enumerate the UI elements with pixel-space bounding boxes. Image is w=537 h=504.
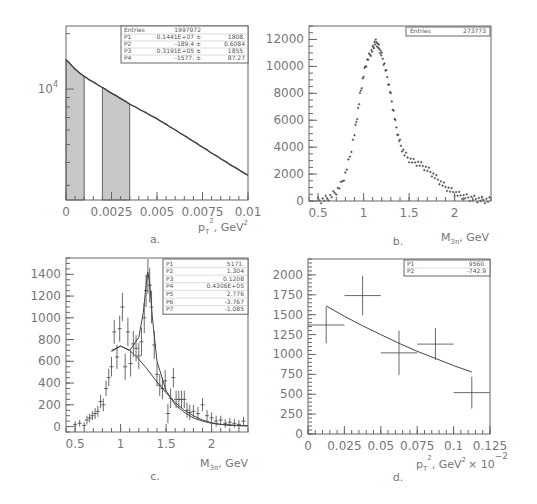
y-tick-label: 0 xyxy=(53,420,61,434)
stats-cell: 0.1441E+07 ± xyxy=(157,33,201,40)
axis-title-part: 2 xyxy=(462,456,466,464)
stats-cell: 1855. xyxy=(228,47,245,54)
x-axis-title: M3π, GeV xyxy=(441,231,489,246)
x-tick-label: 0 xyxy=(304,439,312,453)
fit-curve xyxy=(66,59,248,175)
stats-cell: P3 xyxy=(124,47,132,54)
y-tick-label: 1200 xyxy=(30,289,61,303)
stats-cell: 1808. xyxy=(228,33,245,40)
stats-cell: -189.4 ± xyxy=(175,40,201,47)
y-tick-label: 10000 xyxy=(266,59,304,73)
panel-a: 00.00250.0050.00750.01104Entries1997972P… xyxy=(0,0,268,250)
x-tick-label: 0.005 xyxy=(140,205,174,219)
x-tick-label: 0.0025 xyxy=(91,205,133,219)
y-tick-label: 250 xyxy=(280,407,303,421)
x-tick-label: 0.5 xyxy=(309,206,328,220)
panel-caption: b. xyxy=(393,235,403,248)
y-tick-label: 500 xyxy=(280,387,303,401)
axis-title-part: p xyxy=(416,458,423,471)
y-tick-label: 8000 xyxy=(273,86,304,100)
axis-title-part: T xyxy=(422,465,428,473)
y-tick-label: 6000 xyxy=(273,113,304,127)
stats-cell: 0.3191E+05 ± xyxy=(157,47,201,54)
stats-cell: P1 xyxy=(124,33,132,40)
chart-b: 0.511.52020004000600080001000012000Entri… xyxy=(268,0,537,250)
y-tick-label: 1750 xyxy=(272,288,303,302)
stats-cell: P5 xyxy=(166,290,174,297)
stats-cell: -3.767 xyxy=(225,298,245,305)
stats-cell: P1 xyxy=(166,260,174,267)
x-axis-title: M3π, GeV xyxy=(200,457,248,472)
y-tick-label: 0 xyxy=(295,427,303,441)
y-tick-label: 4000 xyxy=(273,140,304,154)
y-tick-label: 1000 xyxy=(30,311,61,325)
y-tick-label: 1400 xyxy=(30,267,61,281)
x-tick-label: 0 xyxy=(62,205,70,219)
y-tick-label: 1250 xyxy=(272,328,303,342)
x-tick-label: 0.075 xyxy=(400,439,434,453)
stats-cell: P4 xyxy=(166,282,174,289)
y-tick-label: 600 xyxy=(38,354,61,368)
stats-cell: P2 xyxy=(407,267,415,274)
x-tick-label: 0.05 xyxy=(367,439,394,453)
x-axis-title: pT2, GeV2 xyxy=(416,454,466,473)
stats-cell: 0.6084 xyxy=(224,40,245,47)
plot-frame xyxy=(309,26,491,201)
x-tick-label: 0.0075 xyxy=(182,205,224,219)
x-tick-label: 2 xyxy=(208,437,216,451)
stats-cell: 0.1208 xyxy=(223,275,244,282)
x-tick-label: 0.01 xyxy=(235,205,262,219)
x-axis-title: pT2, GeV2 xyxy=(198,217,248,236)
x-tick-label: 0.5 xyxy=(66,437,85,451)
stats-cell: -1.085 xyxy=(225,305,245,312)
y-tick-label: 104 xyxy=(38,80,58,96)
axis-title-part: , GeV xyxy=(432,458,462,471)
panel-c: 0.511.520200400600800100012001400P15171.… xyxy=(0,250,268,504)
histogram-line xyxy=(66,59,248,175)
axis-title-part: , GeV xyxy=(459,231,489,244)
panel-b: 0.511.52020004000600080001000012000Entri… xyxy=(268,0,537,250)
y-tick-label: 2000 xyxy=(272,268,303,282)
x-axis-multiplier: × 10−2 xyxy=(468,451,508,471)
stats-cell: 9560. xyxy=(469,260,486,267)
panel-d: 00.0250.050.0750.10.12502505007501000125… xyxy=(268,250,537,504)
stats-cell: P4 xyxy=(124,54,132,61)
stats-cell: 2.776 xyxy=(227,290,244,297)
stats-cell: Entries xyxy=(124,26,145,33)
chart-d: 00.0250.050.0750.10.12502505007501000125… xyxy=(268,250,537,504)
y-tick-label: 800 xyxy=(38,333,61,347)
y-tick-label: 750 xyxy=(280,367,303,381)
stats-cell: 1.304 xyxy=(227,267,244,274)
y-tick-label: 200 xyxy=(38,398,61,412)
stats-cell: P3 xyxy=(166,275,174,282)
x-tick-label: 1.5 xyxy=(157,437,176,451)
y-tick-label: 400 xyxy=(38,376,61,390)
panel-caption: a. xyxy=(150,233,160,246)
axis-title-part: M xyxy=(200,457,210,470)
y-tick-label: 0 xyxy=(296,194,304,208)
x-tick-label: 1 xyxy=(360,206,368,220)
stats-cell: P2 xyxy=(166,267,174,274)
stats-cell: -1577. ± xyxy=(175,54,201,61)
x-tick-label: 1 xyxy=(117,437,125,451)
chart-c: 0.511.520200400600800100012001400P15171.… xyxy=(0,250,268,504)
axis-title-part: M xyxy=(441,231,451,244)
y-tick-label: 1000 xyxy=(272,347,303,361)
background-fit-curve xyxy=(112,346,249,426)
shaded-region xyxy=(102,87,129,200)
axis-title-part: 2 xyxy=(244,219,248,227)
stats-cell: 87.27 xyxy=(228,54,245,61)
panel-caption: d. xyxy=(393,471,403,484)
axis-title-part: T xyxy=(204,228,210,236)
stats-cell: P6 xyxy=(166,298,174,305)
axis-title-part: p xyxy=(198,221,205,234)
y-tick-label: 1500 xyxy=(272,308,303,322)
x-tick-label: 0.1 xyxy=(444,439,463,453)
stats-cell: P1 xyxy=(407,260,415,267)
stats-cell: Entries xyxy=(410,27,431,34)
stats-cell: 5171. xyxy=(227,260,244,267)
x-tick-label: 0.025 xyxy=(327,439,361,453)
panel-caption: c. xyxy=(150,470,160,483)
axis-title-part: , GeV xyxy=(218,457,248,470)
stats-cell: 0.4306E+05 xyxy=(207,282,245,289)
